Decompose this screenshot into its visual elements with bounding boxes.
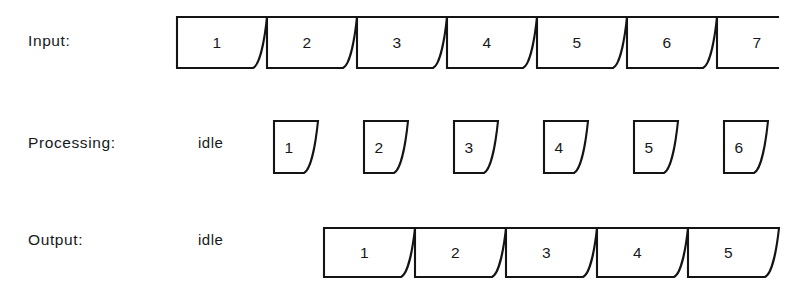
- timing-box-outline: [627, 17, 717, 68]
- timing-box-input-5: 5: [537, 17, 627, 68]
- timing-box-outline: [364, 121, 408, 173]
- timing-track-processing: 123456: [0, 98, 811, 188]
- timing-box-label: 3: [464, 139, 473, 156]
- timing-box-label: 5: [724, 244, 733, 261]
- timing-box-label: 2: [451, 244, 460, 261]
- timing-box-label: 4: [633, 244, 642, 261]
- timing-box-label: 3: [392, 34, 401, 51]
- timing-box-outline: [544, 121, 588, 173]
- diagram-row-output: Output: idle 12345: [0, 193, 811, 283]
- timing-box-outline: [537, 17, 627, 68]
- timing-box-processing-6: 6: [724, 121, 768, 173]
- timing-box-label: 1: [284, 139, 293, 156]
- diagram-row-processing: Processing: idle 123456: [0, 98, 811, 188]
- timing-box-label: 5: [644, 139, 653, 156]
- pipeline-timing-diagram: Input: 1234567 Processing: idle 123456 O…: [0, 0, 811, 293]
- diagram-row-input: Input: 1234567: [0, 0, 811, 90]
- timing-box-outline: [324, 228, 415, 277]
- timing-box-input-4: 4: [447, 17, 537, 68]
- timing-box-outline: [506, 228, 597, 277]
- timing-track-output: 12345: [0, 193, 811, 283]
- timing-box-label: 7: [752, 34, 761, 51]
- timing-box-processing-5: 5: [634, 121, 678, 173]
- timing-box-label: 5: [572, 34, 581, 51]
- timing-box-label: 2: [302, 34, 311, 51]
- timing-box-input-2: 2: [267, 17, 357, 68]
- timing-box-label: 1: [360, 244, 369, 261]
- timing-box-outline: [634, 121, 678, 173]
- timing-box-outline: [415, 228, 506, 277]
- timing-box-outline: [688, 228, 779, 277]
- timing-boxes-input: 1234567: [0, 0, 811, 90]
- timing-box-outline: [447, 17, 537, 68]
- timing-box-output-4: 4: [597, 228, 688, 277]
- timing-box-label: 4: [554, 139, 563, 156]
- timing-box-outline: [597, 228, 688, 277]
- timing-box-input-3: 3: [357, 17, 447, 68]
- timing-box-outline-open: [717, 17, 778, 68]
- timing-box-label: 4: [482, 34, 491, 51]
- timing-box-outline: [177, 17, 267, 68]
- timing-box-outline: [357, 17, 447, 68]
- timing-box-processing-3: 3: [454, 121, 498, 173]
- timing-boxes-processing: 123456: [0, 98, 811, 188]
- timing-box-outline: [724, 121, 768, 173]
- timing-track-input: 1234567: [0, 0, 811, 90]
- timing-box-outline: [274, 121, 318, 173]
- timing-box-output-5: 5: [688, 228, 779, 277]
- timing-box-label: 1: [212, 34, 221, 51]
- timing-box-label: 6: [662, 34, 671, 51]
- timing-box-processing-2: 2: [364, 121, 408, 173]
- timing-box-outline: [267, 17, 357, 68]
- timing-box-output-2: 2: [415, 228, 506, 277]
- timing-box-output-1: 1: [324, 228, 415, 277]
- timing-box-outline: [454, 121, 498, 173]
- timing-box-processing-4: 4: [544, 121, 588, 173]
- timing-box-output-3: 3: [506, 228, 597, 277]
- timing-box-label: 3: [542, 244, 551, 261]
- timing-box-input-6: 6: [627, 17, 717, 68]
- timing-box-label: 2: [374, 139, 383, 156]
- timing-box-input-7: 7: [717, 17, 778, 68]
- timing-box-processing-1: 1: [274, 121, 318, 173]
- timing-box-label: 6: [734, 139, 743, 156]
- timing-box-input-1: 1: [177, 17, 267, 68]
- timing-boxes-output: 12345: [0, 193, 811, 283]
